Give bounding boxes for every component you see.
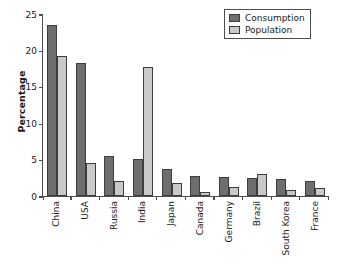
legend-label-consumption: Consumption (245, 13, 305, 23)
x-axis-tick-label: USA (85, 182, 95, 201)
bar-consumption (76, 63, 86, 196)
y-tick-label: 20 (26, 45, 37, 58)
bar-group (100, 15, 129, 196)
x-axis-tick-label: Russia (114, 172, 124, 201)
x-label-cell: Canada (186, 201, 215, 269)
x-tick-mark (156, 196, 157, 200)
x-tick-mark (328, 196, 329, 200)
x-tick-mark (185, 196, 186, 200)
x-tick-mark (299, 196, 300, 200)
bar-consumption (247, 178, 257, 196)
bar-population (143, 67, 153, 196)
bar-consumption (276, 179, 286, 196)
bar-group (300, 15, 329, 196)
x-axis-tick-label: Brazil (257, 176, 267, 201)
legend-item-population: Population (229, 25, 305, 35)
x-label-cell: Brazil (243, 201, 272, 269)
x-label-cell: India (128, 201, 157, 269)
x-axis-tick-label: India (142, 179, 152, 201)
x-axis-tick-label: Japan (171, 176, 181, 201)
bar-chart: Percentage 0510152025 ChinaUSARussiaIndi… (0, 0, 342, 271)
x-axis-labels: ChinaUSARussiaIndiaJapanCanadaGermanyBra… (42, 201, 329, 269)
x-tick-mark (43, 196, 44, 200)
bar-group (43, 15, 72, 196)
bar-consumption (104, 156, 114, 196)
legend-label-population: Population (245, 25, 292, 35)
x-axis-tick-label: Germany (229, 160, 239, 201)
bar-consumption (47, 25, 57, 196)
y-tick-label: 5 (31, 154, 37, 167)
x-axis-tick-label: Canada (200, 167, 210, 201)
x-label-cell: Russia (99, 201, 128, 269)
legend-swatch-population (229, 26, 240, 34)
x-label-cell: China (42, 201, 71, 269)
x-label-cell: South Korea (272, 201, 301, 269)
x-tick-mark (99, 196, 100, 200)
y-tick-label: 25 (26, 9, 37, 22)
legend-swatch-consumption (229, 14, 240, 22)
x-tick-mark (128, 196, 129, 200)
bar-consumption (305, 181, 315, 196)
y-tick-label: 0 (31, 191, 37, 204)
x-tick-mark (70, 196, 71, 200)
x-axis-tick-label: France (315, 171, 325, 201)
x-label-cell: France (300, 201, 329, 269)
x-label-cell: Germany (214, 201, 243, 269)
x-axis-tick-label: South Korea (286, 146, 296, 201)
y-tick-label: 15 (26, 81, 37, 94)
x-label-cell: USA (71, 201, 100, 269)
bar-group (129, 15, 158, 196)
bar-group (243, 15, 272, 196)
x-tick-mark (213, 196, 214, 200)
x-axis-tick-label: China (56, 175, 66, 201)
y-tick-label: 10 (26, 118, 37, 131)
chart-legend: Consumption Population (224, 9, 311, 39)
bar-group (157, 15, 186, 196)
bar-consumption (190, 176, 200, 196)
legend-item-consumption: Consumption (229, 13, 305, 23)
y-axis-label: Percentage (16, 59, 27, 145)
x-label-cell: Japan (157, 201, 186, 269)
bar-consumption (219, 177, 229, 196)
bar-group (72, 15, 101, 196)
x-tick-mark (271, 196, 272, 200)
x-tick-mark (242, 196, 243, 200)
